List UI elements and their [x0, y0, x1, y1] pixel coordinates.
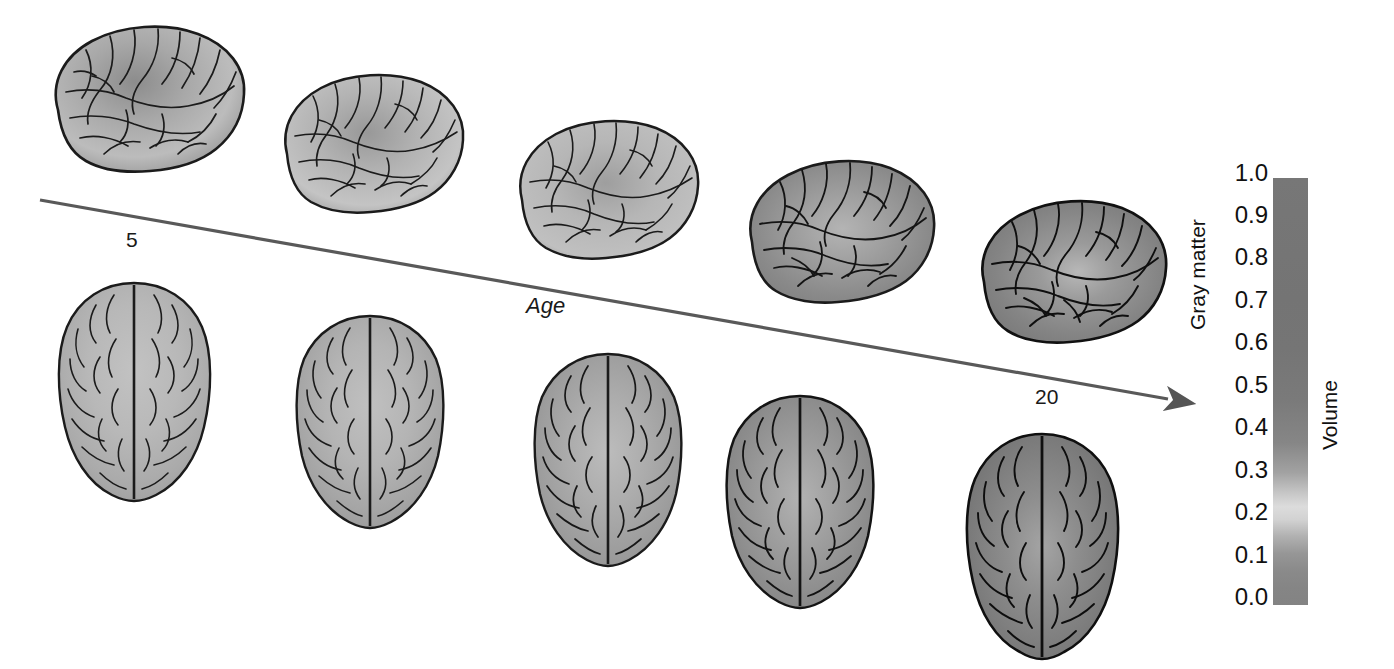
- brain-dorsal-age-9: [290, 310, 450, 532]
- brain-lateral-age-13: [498, 108, 703, 278]
- age-end-label: 20: [1035, 385, 1058, 409]
- age-start-label: 5: [126, 228, 138, 252]
- brain-dorsal-age-5: [52, 277, 217, 505]
- colorbar-tick-0-1: 0.1: [1208, 543, 1268, 567]
- brain-lateral-age-9: [263, 62, 468, 232]
- brain-lateral-age-20: [960, 188, 1170, 363]
- colorbar-tick-0-8: 0.8: [1208, 245, 1268, 269]
- colorbar-tick-0-6: 0.6: [1208, 330, 1268, 354]
- colorbar-secondary-label: Volume: [1318, 380, 1342, 450]
- brain-lateral-age-5: [30, 14, 250, 194]
- age-axis-title: Age: [526, 293, 565, 319]
- colorbar-gradient-strip: [1273, 178, 1308, 605]
- gray-matter-colorbar: Gray matter 1.0 0.9 0.8 0.7 0.6 0.5 0.4 …: [1190, 160, 1390, 630]
- colorbar-tick-1-0: 1.0: [1208, 161, 1268, 185]
- colorbar-tick-0-7: 0.7: [1208, 288, 1268, 312]
- colorbar-tick-0-2: 0.2: [1208, 500, 1268, 524]
- brain-dorsal-age-17: [720, 390, 880, 612]
- colorbar-primary-label: Gray matter: [1186, 219, 1210, 330]
- brain-dorsal-age-13: [528, 348, 688, 570]
- colorbar-tick-0-3: 0.3: [1208, 458, 1268, 482]
- brain-development-figure: 5 Age 20: [0, 0, 1394, 669]
- brain-lateral-age-17: [728, 148, 938, 323]
- colorbar-tick-0-5: 0.5: [1208, 373, 1268, 397]
- brain-dorsal-age-20: [960, 428, 1125, 663]
- colorbar-tick-0-0: 0.0: [1208, 585, 1268, 609]
- colorbar-tick-0-4: 0.4: [1208, 415, 1268, 439]
- colorbar-tick-0-9: 0.9: [1208, 203, 1268, 227]
